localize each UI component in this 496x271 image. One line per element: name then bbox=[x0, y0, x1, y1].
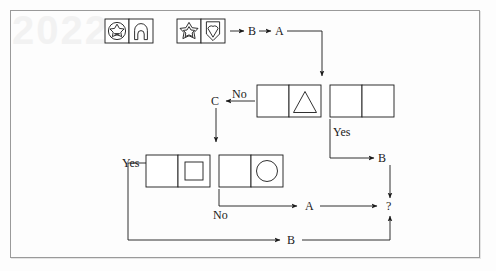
label-yes-left: Yes bbox=[122, 157, 139, 169]
label-top-b: B bbox=[248, 25, 256, 37]
flowchart-svg bbox=[0, 0, 496, 271]
probe-group-square bbox=[146, 155, 210, 187]
probe-group-triangle bbox=[257, 85, 321, 117]
label-question: ? bbox=[386, 200, 391, 212]
label-no-top: No bbox=[232, 88, 247, 100]
probe-group-blank bbox=[330, 85, 394, 117]
stimulus-group-left bbox=[105, 19, 153, 43]
figure-canvas: 2022 bbox=[0, 0, 496, 271]
label-b-bottom: B bbox=[287, 234, 295, 246]
label-a-mid: A bbox=[305, 200, 314, 212]
label-no-bottom: No bbox=[213, 209, 228, 221]
label-top-a: A bbox=[275, 25, 284, 37]
stimulus-group-right bbox=[177, 19, 225, 43]
probe-group-circle bbox=[219, 155, 283, 187]
label-b-right: B bbox=[378, 152, 386, 164]
label-yes-right: Yes bbox=[333, 126, 350, 138]
label-c: C bbox=[211, 95, 219, 107]
